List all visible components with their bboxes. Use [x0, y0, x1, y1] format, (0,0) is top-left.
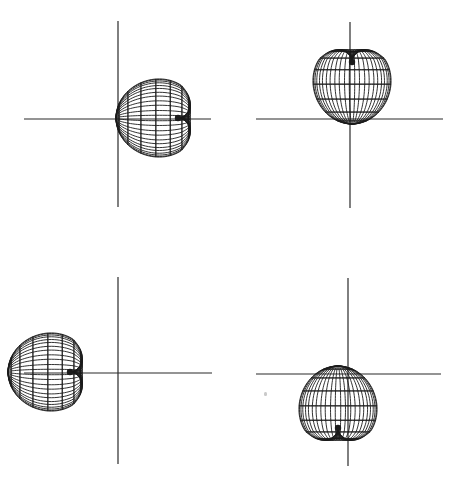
lobe-mesh-top-right	[313, 50, 391, 124]
mesh-spoke	[116, 118, 190, 155]
mesh-spoke	[301, 366, 338, 440]
mesh-spoke	[338, 366, 375, 440]
pattern-pole-top-left	[175, 115, 181, 121]
mesh-spoke	[315, 50, 352, 124]
mesh-spoke	[8, 335, 82, 372]
plot-canvas	[0, 0, 466, 496]
scan-speckle	[264, 392, 267, 396]
mesh-spoke	[8, 372, 82, 409]
pattern-pole-bottom-left	[67, 369, 73, 375]
pattern-panel-bottom-left	[8, 277, 212, 464]
pattern-panel-top-left	[24, 21, 211, 207]
pattern-pole-bottom-right	[335, 425, 341, 431]
radiation-pattern-figure	[0, 0, 466, 496]
lobe-mesh-top-left	[116, 79, 190, 157]
lobe-mesh-bottom-right	[299, 366, 377, 440]
pattern-panel-bottom-right	[256, 278, 441, 466]
pattern-panel-top-right	[256, 22, 443, 208]
mesh-spoke	[116, 81, 190, 118]
mesh-spoke	[352, 50, 389, 124]
lobe-mesh-bottom-left	[8, 333, 82, 411]
pattern-pole-top-right	[349, 59, 355, 65]
